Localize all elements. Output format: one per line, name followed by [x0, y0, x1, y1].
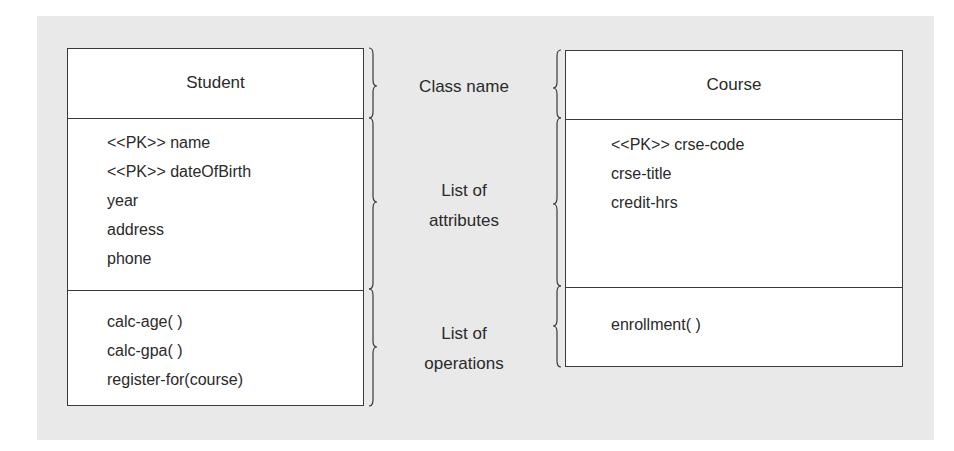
label-text: List of: [394, 319, 534, 349]
label-class-name: Class name: [394, 72, 534, 102]
label-text: attributes: [394, 206, 534, 236]
brace-left-operations: [369, 289, 377, 406]
label-text: Class name: [419, 77, 509, 96]
label-list-of-attributes: List of attributes: [394, 176, 534, 236]
brace-right-attributes: [553, 118, 561, 286]
label-list-of-operations: List of operations: [394, 319, 534, 379]
label-text: List of: [394, 176, 534, 206]
brace-left-class-name: [369, 48, 377, 118]
brace-right-operations: [553, 286, 561, 367]
label-text: operations: [394, 349, 534, 379]
brace-right-class-name: [553, 50, 561, 118]
brace-left-attributes: [369, 118, 377, 289]
